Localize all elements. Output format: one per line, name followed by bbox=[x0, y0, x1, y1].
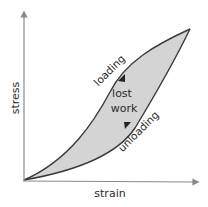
y-axis-label: stress bbox=[9, 81, 22, 114]
x-axis-label: strain bbox=[94, 187, 125, 200]
lost-work-label-line1: lost bbox=[112, 87, 133, 100]
lost-work-label-line2: work bbox=[111, 102, 138, 115]
hysteresis-diagram: stress strain loading unloading lost wor… bbox=[0, 0, 208, 207]
lost-work-area bbox=[24, 29, 190, 180]
x-axis bbox=[23, 181, 196, 182]
